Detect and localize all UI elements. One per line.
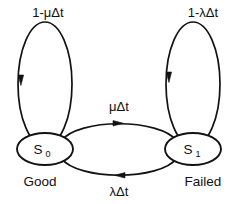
self-loop-s1-arrowhead-icon: [166, 72, 171, 83]
state-node-s0-name: Good: [23, 174, 56, 189]
self-loop-s0-path: [18, 22, 72, 146]
self-loop-s1-path: [166, 22, 220, 146]
state-node-s0-subscript: 0: [45, 149, 50, 159]
transition-s1-to-s0-label: λΔt: [110, 184, 129, 199]
transition-s0-to-s1: [61, 121, 177, 141]
markov-diagram-canvas: S 0 S 1 1-μΔt 1-λΔt μΔt λΔt Good Failed: [0, 0, 236, 204]
state-node-s1-ellipse[interactable]: [165, 133, 221, 165]
self-loop-s0: [18, 22, 72, 146]
transition-s1-to-s0-arrowhead-icon: [115, 173, 126, 178]
state-node-s1-symbol: S: [183, 142, 192, 157]
state-node-s0-symbol: S: [33, 142, 42, 157]
state-node-s1[interactable]: S 1: [165, 133, 221, 165]
transition-s1-to-s0-path: [61, 158, 177, 175]
state-transition-diagram: S 0 S 1 1-μΔt 1-λΔt μΔt λΔt Good Failed: [0, 0, 236, 204]
transition-s0-to-s1-arrowhead-icon: [113, 121, 124, 126]
transition-s0-to-s1-label: μΔt: [109, 99, 129, 114]
self-loop-s0-arrowhead-icon: [18, 75, 23, 86]
state-node-s0[interactable]: S 0: [17, 133, 73, 165]
transition-s1-to-s0: [61, 158, 177, 178]
state-node-s1-subscript: 1: [195, 149, 200, 159]
self-loop-s0-label: 1-μΔt: [32, 5, 64, 20]
transition-s0-to-s1-path: [61, 124, 177, 141]
self-loop-s1: [166, 22, 220, 146]
self-loop-s1-label: 1-λΔt: [188, 5, 219, 20]
state-node-s1-name: Failed: [185, 174, 222, 189]
